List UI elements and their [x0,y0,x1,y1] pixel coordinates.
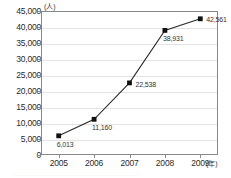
data-series [41,11,218,155]
data-point-marker [198,16,203,21]
x-axis-tick-mark [94,155,95,158]
data-point-marker [56,133,61,138]
x-axis-tick-label: 2005 [50,158,68,168]
data-point-value-label: 38,931 [163,35,184,42]
x-axis-tick-label: 2008 [156,158,174,168]
cutoff-caption: ……………………………………………………… [14,171,219,176]
data-point-value-label: 11,160 [92,124,112,131]
data-point-marker [163,28,168,33]
x-axis-unit-label: (年) [206,158,218,168]
y-axis-tick-mark [38,155,41,156]
line-chart: (人) 05,00010,00015,00020,00025,00030,000… [0,0,231,178]
x-axis-tick-label: 2006 [85,158,103,168]
data-point-marker [127,81,132,86]
data-point-value-label: 22,538 [136,81,157,88]
y-axis-unit-label: (人) [44,1,56,11]
data-point-marker [92,117,97,122]
x-axis-tick-mark [200,155,201,158]
x-axis-tick-mark [165,155,166,158]
x-axis-tick-label: 2007 [120,158,138,168]
data-point-value-label: 42,561 [206,16,227,23]
data-point-value-label: 6,013 [57,141,74,148]
x-axis-tick-mark [59,155,60,158]
x-axis-tick-mark [130,155,131,158]
